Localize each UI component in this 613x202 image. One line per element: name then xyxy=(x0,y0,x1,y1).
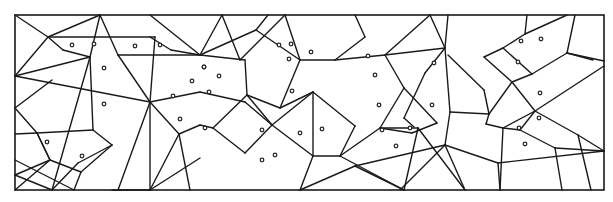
site-point xyxy=(394,144,398,148)
edge-segment xyxy=(418,128,465,190)
edge-segment xyxy=(430,15,445,48)
site-point xyxy=(260,158,264,162)
edge-segment xyxy=(213,95,247,128)
site-point xyxy=(171,94,175,98)
edge-segment xyxy=(503,111,535,128)
site-point xyxy=(537,116,541,120)
site-point xyxy=(366,54,370,58)
edge-segment xyxy=(525,15,527,34)
edge-segment xyxy=(222,15,240,60)
edge-segment xyxy=(272,92,313,125)
edge-segment xyxy=(63,50,90,57)
site-point xyxy=(203,126,207,130)
edge-segment xyxy=(245,102,272,125)
site-point xyxy=(539,37,543,41)
edge-segment xyxy=(48,37,63,50)
edge-segment xyxy=(179,134,190,190)
edge-segment xyxy=(535,66,604,111)
edge-segment xyxy=(256,15,268,30)
edge-segment xyxy=(484,48,503,57)
edge-segment xyxy=(335,37,365,60)
voronoi-diagram xyxy=(0,0,613,202)
edge-segment xyxy=(400,145,445,190)
edge-segment xyxy=(448,55,484,90)
edge-segment xyxy=(445,15,448,48)
edge-segment xyxy=(37,133,50,160)
site-point xyxy=(309,50,313,54)
site-point xyxy=(516,60,520,64)
edge-segment xyxy=(150,15,200,55)
site-point xyxy=(202,65,206,69)
edge-segment xyxy=(404,128,418,190)
site-point xyxy=(133,44,137,48)
edge-segment xyxy=(90,15,100,57)
site-point xyxy=(178,117,182,121)
edge-segment xyxy=(385,15,430,55)
site-point xyxy=(373,73,377,77)
site-point xyxy=(320,127,324,131)
site-point xyxy=(408,126,412,130)
edge-segment xyxy=(50,160,81,172)
edge-segment xyxy=(118,102,150,190)
edge-segment xyxy=(355,145,445,166)
edge-segment xyxy=(498,163,500,190)
edge-segment xyxy=(15,57,90,76)
edge-segment xyxy=(285,15,300,60)
site-point xyxy=(273,153,277,157)
site-point xyxy=(207,90,211,94)
edge-segment xyxy=(15,37,48,76)
site-point xyxy=(158,43,162,47)
edge-segment xyxy=(37,130,93,133)
site-point xyxy=(287,57,291,61)
edge-segment xyxy=(200,30,256,55)
edge-segment xyxy=(15,133,37,134)
edge-segment xyxy=(150,134,179,190)
edge-segment xyxy=(578,135,591,190)
edge-segment xyxy=(498,151,604,163)
edge-segment xyxy=(200,92,245,102)
site-point xyxy=(102,66,106,70)
edge-segment xyxy=(335,55,385,60)
edge-segment xyxy=(272,125,313,156)
edge-segment xyxy=(445,145,498,163)
site-point xyxy=(102,102,106,106)
edge-segment xyxy=(179,125,200,134)
edge-segment xyxy=(520,111,535,130)
edge-segment xyxy=(150,37,155,102)
edge-segment xyxy=(486,124,503,128)
site-point xyxy=(430,103,434,107)
edge-segment xyxy=(15,80,52,108)
edge-segment xyxy=(200,15,222,55)
edge-segment xyxy=(404,73,425,118)
edge-segment xyxy=(280,60,300,108)
edge-segment xyxy=(567,15,575,53)
edge-segment xyxy=(484,90,489,114)
edge-segment xyxy=(15,76,150,102)
edge-segment xyxy=(355,15,365,37)
edge-segment xyxy=(380,128,412,133)
site-point xyxy=(277,43,281,47)
edge-segment xyxy=(500,128,503,190)
site-point xyxy=(92,42,96,46)
edge-segment xyxy=(15,15,48,37)
edge-segment xyxy=(512,82,535,111)
edge-segment xyxy=(213,128,245,153)
edge-segment xyxy=(404,118,414,127)
edge-segment xyxy=(532,53,567,74)
edge-segment xyxy=(445,48,450,112)
edge-segment xyxy=(340,128,380,156)
edge-segment xyxy=(100,15,118,55)
site-point xyxy=(290,89,294,93)
edge-segment xyxy=(484,57,512,82)
edge-segment xyxy=(555,148,604,151)
site-point xyxy=(190,79,194,83)
site-point xyxy=(45,140,49,144)
site-point xyxy=(289,42,293,46)
site-point xyxy=(260,128,264,132)
edge-segment xyxy=(555,148,562,190)
site-point xyxy=(80,154,84,158)
edge-segment xyxy=(150,102,179,134)
edge-segment xyxy=(15,175,52,190)
edge-segment xyxy=(380,88,404,128)
edge-segment xyxy=(489,82,512,114)
